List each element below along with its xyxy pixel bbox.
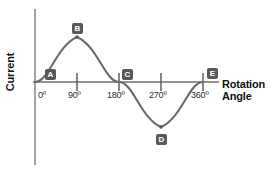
tick-label-90: 90º (68, 90, 81, 100)
point-label-e: E (207, 68, 218, 79)
x-axis-title: Rotation Angle (222, 78, 265, 102)
y-axis-title: Current (4, 46, 16, 98)
point-label-c: C (122, 69, 133, 80)
x-axis-title-line-2: Angle (222, 90, 265, 102)
data-point-d (159, 125, 163, 129)
tick-label-360: 360º (191, 90, 209, 100)
point-label-b: B (72, 23, 83, 34)
point-label-a: A (45, 69, 56, 80)
data-point-b (75, 35, 79, 39)
tick-label-180: 180º (107, 90, 125, 100)
x-axis-title-line-1: Rotation (222, 78, 265, 90)
tick-label-0: 0º (38, 90, 46, 100)
sine-wave-figure: Current Rotation Angle 0º 90º 180º 270º … (0, 0, 272, 172)
tick-label-270: 270º (149, 90, 167, 100)
point-label-d: D (156, 134, 167, 145)
